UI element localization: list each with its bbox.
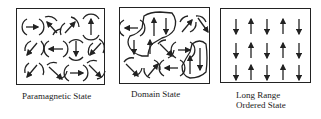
paramagnetic-spins-icon xyxy=(17,9,106,86)
long-range-label-line2: Ordered State xyxy=(236,100,286,110)
paramagnetic-state-label: Paramagnetic State xyxy=(22,91,91,101)
domain-state-diagram xyxy=(119,7,210,84)
paramagnetic-state-diagram xyxy=(16,8,105,85)
domain-spins-icon xyxy=(120,8,211,85)
ordered-spins-icon xyxy=(221,9,312,84)
long-range-label-line1: Long Range xyxy=(236,90,280,100)
domain-state-label: Domain State xyxy=(131,89,180,99)
long-range-ordered-diagram xyxy=(220,8,311,83)
